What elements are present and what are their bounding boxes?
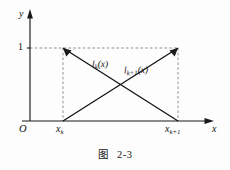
curve-label-l-k-argument: (x) — [98, 59, 109, 69]
curve-label-l-k-plus-1-argument: (x) — [138, 65, 149, 75]
x-tick-label-k: xk — [56, 124, 63, 134]
y-axis-arrowhead-icon — [27, 9, 33, 19]
curve-label-l-k: lk(x) — [92, 60, 108, 70]
curve-label-l-k-subscript: k — [95, 63, 98, 70]
figure-caption-prefix: 图 — [98, 149, 108, 160]
figure-graphic — [0, 0, 230, 170]
curve-label-l-k-plus-1-subscript: k+1 — [127, 69, 138, 76]
figure-container: y x O 1 xk xk+1 lk(x) lk+1(x) 图2-3 — [0, 0, 230, 170]
x-axis-label: x — [212, 124, 216, 134]
curve-label-l-k-plus-1: lk+1(x) — [124, 66, 148, 76]
y-tick-label-one: 1 — [18, 42, 23, 52]
figure-caption-number: 2-3 — [117, 149, 132, 160]
origin-label: O — [19, 124, 27, 135]
y-axis-label: y — [19, 9, 23, 19]
x-tick-label-k-plus-1-subscript: k+1 — [169, 128, 180, 135]
x-tick-label-k-plus-1: xk+1 — [165, 124, 180, 134]
figure-caption: 图2-3 — [0, 146, 230, 161]
